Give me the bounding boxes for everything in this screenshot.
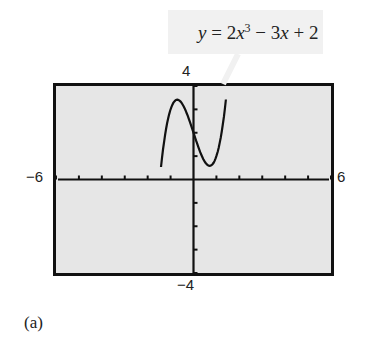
ymin-label: −4 [177,276,194,293]
label-pointer [223,54,238,84]
axes [56,83,331,276]
figure-caption: (a) [24,313,43,333]
xmin-label: −6 [26,168,43,185]
xmax-label: 6 [337,168,345,185]
ymax-label: 4 [182,62,190,79]
